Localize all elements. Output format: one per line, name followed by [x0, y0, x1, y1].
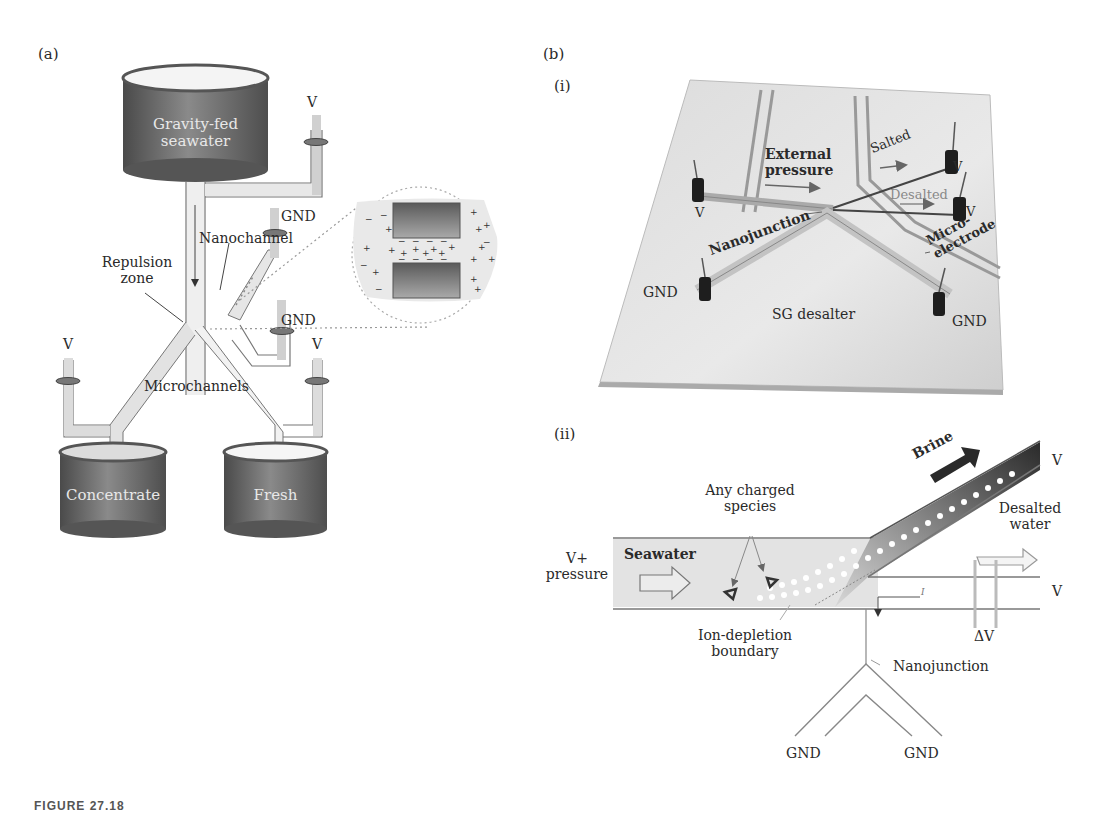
desalted-v-label-ii: V — [1052, 583, 1062, 599]
svg-text:−: − — [440, 236, 448, 246]
ion-depletion-line2: boundary — [690, 643, 800, 659]
svg-text:−: − — [365, 214, 373, 224]
desalted-water-label: Desalted water — [990, 500, 1070, 532]
brine-v-label: V — [1052, 452, 1062, 468]
gnd-left-chip-label: GND — [643, 284, 678, 300]
svg-text:−: − — [380, 210, 388, 220]
svg-text:+: + — [488, 254, 496, 264]
charged-line1: Any charged — [695, 482, 805, 498]
svg-text:−: − — [483, 237, 491, 247]
repulsion-line2: zone — [96, 270, 178, 286]
microchannels-label: Microchannels — [144, 378, 249, 394]
gnd-left-ii-label: GND — [786, 745, 821, 761]
svg-text:−: − — [426, 236, 434, 246]
external-line2: pressure — [765, 162, 833, 178]
svg-text:−: − — [426, 254, 434, 264]
charged-species-label: Any charged species — [695, 482, 805, 514]
panel-b-ii-label: (ii) — [554, 426, 575, 443]
charged-line2: species — [695, 498, 805, 514]
svg-text:+: + — [470, 254, 478, 264]
svg-text:+: + — [483, 220, 491, 230]
svg-text:+: + — [363, 243, 371, 253]
delta-v-label: ΔV — [974, 628, 994, 644]
ion-depletion-label: Ion-depletion boundary — [690, 627, 800, 659]
current-label: I — [921, 587, 925, 597]
gnd-right-chip-label: GND — [952, 313, 987, 329]
svg-text:+: + — [372, 267, 380, 277]
svg-text:−: − — [398, 236, 406, 246]
nanochannel-inset: +++ −+− −− +++ +++ +++ +++ ++− −−−− −−−− — [352, 187, 497, 323]
svg-text:+: + — [448, 242, 456, 252]
gnd-right-ii-label: GND — [904, 745, 939, 761]
svg-text:+: + — [475, 224, 483, 234]
nanochannel-label: Nanochannel — [199, 230, 293, 246]
svg-text:−: − — [375, 284, 383, 294]
svg-text:−: − — [360, 260, 368, 270]
panel-b-ii-schematic — [613, 441, 1040, 736]
left-v-label: V — [695, 206, 704, 221]
external-line1: External — [765, 146, 833, 162]
desalted-water-line1: Desalted — [990, 500, 1070, 516]
svg-text:+: + — [385, 224, 393, 234]
panel-b-label: (b) — [543, 46, 564, 63]
svg-text:−: − — [412, 254, 420, 264]
v-pressure-line2: pressure — [542, 566, 612, 582]
electrode-v-left-label: V — [63, 336, 73, 352]
electrode-v-top-label: V — [307, 94, 317, 110]
sg-desalter-label: SG desalter — [772, 306, 855, 322]
svg-text:−: − — [412, 236, 420, 246]
salted-v-label: V — [953, 160, 962, 175]
seawater-label-line1: Gravity-fed — [123, 116, 268, 133]
gnd-lower-label: GND — [281, 312, 316, 328]
seawater-label-line2: seawater — [123, 133, 268, 150]
svg-text:+: + — [474, 284, 482, 294]
svg-text:+: + — [388, 245, 396, 255]
svg-text:−: − — [398, 254, 406, 264]
ion-depletion-line1: Ion-depletion — [690, 627, 800, 643]
nanojunction-ii-label: Nanojunction — [893, 658, 989, 674]
electrode-v-right-label: V — [312, 336, 322, 352]
seawater-tank-label: Gravity-fed seawater — [123, 116, 268, 151]
gnd-upper-label: GND — [281, 208, 316, 224]
v-pressure-line1: V+ — [542, 550, 612, 566]
panel-b-i-label: (i) — [554, 78, 571, 95]
concentrate-tank-label: Concentrate — [60, 487, 166, 504]
panel-a-label: (a) — [38, 46, 59, 63]
figure-caption: FIGURE 27.18 — [34, 799, 125, 813]
desalted-water-line2: water — [990, 516, 1070, 532]
repulsion-zone-label: Repulsion zone — [96, 254, 178, 286]
svg-text:+: + — [470, 207, 478, 217]
repulsion-line1: Repulsion — [96, 254, 178, 270]
desalted-label: Desalted — [890, 188, 948, 203]
seawater-label: Seawater — [624, 546, 696, 562]
external-pressure-label: External pressure — [765, 146, 833, 178]
v-pressure-label: V+ pressure — [542, 550, 612, 582]
svg-text:−: − — [440, 254, 448, 264]
fresh-tank-label: Fresh — [224, 487, 327, 504]
svg-text:+: + — [470, 274, 478, 284]
